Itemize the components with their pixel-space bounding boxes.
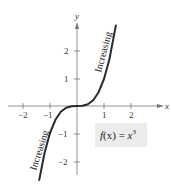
x-axis-label: x: [164, 101, 169, 111]
y-tick-label: −1: [58, 129, 68, 139]
y-axis: y 2 1 −1 −2: [58, 11, 80, 175]
y-axis-label: y: [74, 11, 79, 21]
func-arg: (x) =: [103, 129, 128, 142]
y-axis-arrow-icon: [75, 22, 79, 29]
func-exponent: 3: [132, 128, 136, 136]
y-tick-label: 2: [64, 46, 69, 56]
x-tick-label: −1: [43, 110, 53, 120]
x-tick-label: 1: [102, 110, 107, 120]
x-tick-label: −2: [18, 110, 28, 120]
cubic-function-graph: x −2 −1 1 2 y 2 1 −1 −2 Increasing Incre…: [0, 0, 171, 184]
x-axis-arrow-icon: [157, 104, 164, 108]
x-tick-label: 2: [129, 110, 134, 120]
y-tick-label: −2: [58, 157, 68, 167]
svg-text:f(x) = x3: f(x) = x3: [100, 128, 136, 142]
left-branch-label: Increasing: [27, 129, 50, 172]
y-tick-label: 1: [64, 74, 69, 84]
function-label-box: f(x) = x3: [95, 123, 147, 147]
